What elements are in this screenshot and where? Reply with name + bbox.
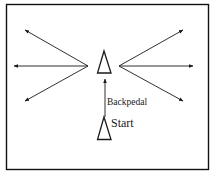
right-arrow-fan xyxy=(119,30,193,101)
start-label: Start xyxy=(111,116,134,130)
arrow-up-left xyxy=(25,30,88,66)
start-cone-icon xyxy=(98,117,112,140)
top-cone-icon xyxy=(98,51,112,73)
left-arrow-fan xyxy=(14,30,88,101)
backpedal-label: Backpedal xyxy=(107,97,147,107)
arrow-down-right xyxy=(119,66,183,101)
arrow-down-left xyxy=(25,66,88,101)
diagram-frame xyxy=(7,5,209,170)
arrow-up-right xyxy=(119,30,183,66)
drill-diagram: Backpedal Start xyxy=(0,0,213,175)
